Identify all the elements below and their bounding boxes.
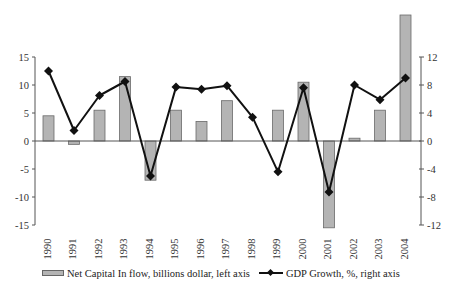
legend-label-gdp-growth: GDP Growth, %, right axis [286,268,400,279]
bar-1990 [43,116,54,141]
left-tick-label: -10 [15,192,29,203]
bar-2003 [375,110,386,141]
left-tick-label: 15 [19,52,30,63]
x-tick-label: 2004 [399,238,410,260]
left-tick-label: -5 [20,164,29,175]
legend-item-gdp-growth: GDP Growth, %, right axis [259,268,400,279]
gdp-marker-2002 [350,81,359,90]
legend-label-capital-inflow: Net Capital In flow, billions dollar, le… [67,268,250,279]
left-y-axis: 151050-5-10-15 [15,52,35,231]
bar-1997 [222,101,233,141]
gdp-marker-1996 [197,85,206,94]
right-tick-label: -4 [427,164,436,175]
chart-canvas: 151050-5-10-15 12840-4-8-12 199019911992… [0,0,455,292]
bar-1993 [120,77,131,141]
gdp-marker-1999 [274,167,283,176]
right-tick-label: 8 [427,80,432,91]
x-tick-label: 1991 [67,239,78,260]
gdp-marker-1990 [44,67,53,76]
legend: Net Capital In flow, billions dollar, le… [42,264,452,282]
x-tick-label: 1999 [271,239,282,260]
x-tick-label: 2002 [348,239,359,260]
x-tick-label: 1992 [93,239,104,260]
x-tick-label: 1995 [169,239,180,260]
bar-1992 [94,110,105,141]
right-tick-label: -12 [427,220,441,231]
left-tick-label: -15 [15,220,29,231]
x-tick-label: 2003 [373,239,384,260]
right-tick-label: 0 [427,136,432,147]
right-tick-label: -8 [427,192,436,203]
bar-2001 [324,141,335,228]
right-y-axis: 12840-4-8-12 [419,52,441,231]
bar-1999 [273,110,284,141]
x-axis-year-labels: 1990199119921993199419951996199719981999… [42,238,410,260]
right-tick-label: 12 [427,52,438,63]
left-tick-label: 0 [24,136,29,147]
x-tick-label: 1993 [118,239,129,260]
line-diamond-swatch-icon [259,268,283,278]
bar-swatch-icon [42,270,64,276]
x-tick-label: 2001 [322,239,333,260]
left-tick-label: 10 [19,80,30,91]
bar-1995 [171,110,182,141]
bar-1991 [69,141,80,144]
x-tick-label: 1998 [246,239,257,260]
gdp-marker-1995 [172,83,181,92]
x-tick-label: 2000 [297,239,308,260]
legend-item-capital-inflow: Net Capital In flow, billions dollar, le… [42,268,250,279]
right-tick-label: 4 [427,108,433,119]
x-tick-label: 1990 [42,239,53,260]
left-tick-label: 5 [24,108,29,119]
bar-1996 [196,121,207,141]
x-tick-label: 1994 [144,238,155,260]
capital-inflow-bars [43,15,411,228]
x-tick-label: 1996 [195,239,206,260]
x-tick-label: 1997 [220,239,231,260]
